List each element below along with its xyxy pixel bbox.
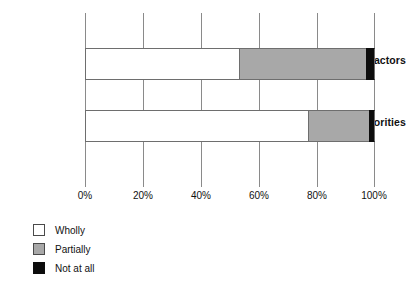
bar-segment-authorities-partially (308, 110, 369, 142)
bar-authorities (85, 110, 375, 142)
legend-swatch-wholly-icon (33, 224, 45, 236)
x-tick-label-60: 60% (237, 190, 281, 201)
chart-legend: Wholly Partially Not at all (33, 221, 94, 278)
gridline-60 (259, 13, 260, 187)
x-tick-label-40: 40% (179, 190, 223, 201)
legend-label-partially: Partially (55, 244, 91, 255)
stacked-bar-chart: Contractors Authorities 0% 20% 40% 60% 8… (0, 0, 406, 288)
legend-item-wholly: Wholly (33, 221, 94, 239)
legend-label-not-at-all: Not at all (55, 263, 94, 274)
x-tick-label-80: 80% (295, 190, 339, 201)
x-tick-label-20: 20% (121, 190, 165, 201)
gridline-40 (201, 13, 202, 187)
bar-contractors (85, 48, 375, 80)
legend-swatch-partially-icon (33, 243, 45, 255)
gridline-100 (374, 13, 375, 187)
bar-segment-contractors-wholly (85, 48, 239, 80)
plot-area (85, 13, 375, 187)
bar-segment-contractors-not-at-all (366, 48, 375, 80)
gridline-0 (85, 13, 86, 187)
bar-segment-authorities-wholly (85, 110, 308, 142)
legend-item-not-at-all: Not at all (33, 259, 94, 277)
bar-segment-contractors-partially (239, 48, 367, 80)
x-tick-label-100: 100% (352, 190, 396, 201)
gridline-20 (143, 13, 144, 187)
gridline-80 (317, 13, 318, 187)
legend-label-wholly: Wholly (55, 225, 85, 236)
x-tick-label-0: 0% (63, 190, 107, 201)
legend-item-partially: Partially (33, 240, 94, 258)
legend-swatch-not-at-all-icon (33, 262, 45, 274)
bar-segment-authorities-not-at-all (369, 110, 375, 142)
